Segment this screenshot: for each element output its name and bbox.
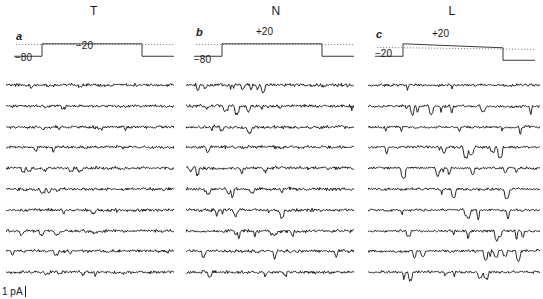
current-sweep <box>6 246 174 263</box>
sweep-polyline <box>368 229 540 241</box>
holding-potential-label-a: −80 <box>15 52 32 63</box>
current-sweep <box>6 101 174 118</box>
sweep-polyline <box>6 104 174 109</box>
sweep-polyline <box>186 271 354 278</box>
current-sweep <box>6 184 174 201</box>
sweep-polyline <box>186 187 354 198</box>
current-sweep <box>368 101 540 118</box>
sweep-polyline <box>186 146 354 153</box>
current-sweep <box>6 122 174 139</box>
sweep-polyline <box>6 187 174 193</box>
voltage-protocol-c <box>375 36 535 62</box>
step-potential-label-a: −20 <box>76 40 93 51</box>
current-sweep <box>368 163 540 180</box>
sweep-polyline <box>186 124 354 133</box>
sweep-polyline <box>6 229 174 236</box>
current-sweep <box>368 205 540 222</box>
sweep-polyline <box>368 188 540 199</box>
zero-reference-line <box>377 47 535 49</box>
scale-bar-label: 1 pA <box>2 286 23 297</box>
sweep-polyline <box>368 146 540 159</box>
current-sweep <box>186 142 354 159</box>
current-sweep <box>6 80 174 97</box>
figure-root: Ta−80−20Nb−80+20Lc−20+20 1 pA <box>0 0 543 299</box>
sweep-polyline <box>368 104 540 115</box>
voltage-protocol-b <box>194 36 354 62</box>
command-step-waveform <box>375 44 535 60</box>
panel-title-t: T <box>64 4 124 18</box>
holding-potential-label-c: −20 <box>375 48 392 59</box>
current-sweep <box>186 80 354 97</box>
sweep-polyline <box>6 125 174 130</box>
sweep-polyline <box>6 250 174 256</box>
current-sweep <box>368 184 540 201</box>
sweep-polyline <box>368 208 540 220</box>
sweep-polyline <box>186 104 354 114</box>
current-sweep <box>186 205 354 222</box>
sweep-polyline <box>6 208 174 214</box>
command-step-waveform <box>194 44 354 56</box>
current-sweep <box>186 184 354 201</box>
sweep-polyline <box>186 83 354 93</box>
current-sweep <box>186 101 354 118</box>
sweep-polyline <box>6 271 174 277</box>
sweep-polyline <box>186 229 354 239</box>
current-sweep <box>6 267 174 284</box>
current-sweep <box>368 142 540 159</box>
sweep-polyline <box>368 271 540 282</box>
voltage-protocol-a <box>14 36 174 62</box>
sweep-polyline <box>186 166 354 176</box>
scale-bar: 1 pA <box>2 286 26 297</box>
vertical-scale-bar-icon <box>25 286 26 297</box>
panel-title-n: N <box>246 4 306 18</box>
step-potential-label-c: +20 <box>432 28 449 39</box>
current-sweep <box>368 226 540 243</box>
current-sweep <box>368 267 540 284</box>
sweep-polyline <box>6 166 174 172</box>
command-step-waveform <box>14 44 174 56</box>
sweep-polyline <box>368 249 540 262</box>
step-potential-label-b: +20 <box>256 26 273 37</box>
current-sweep <box>6 205 174 222</box>
sweep-polyline <box>186 249 354 259</box>
current-sweep <box>6 226 174 243</box>
current-sweep <box>186 226 354 243</box>
current-sweep <box>6 142 174 159</box>
sweep-polyline <box>368 125 540 134</box>
current-sweep <box>368 80 540 97</box>
current-sweep <box>6 163 174 180</box>
sweep-polyline <box>6 146 174 153</box>
current-sweep <box>368 246 540 263</box>
current-sweep <box>186 246 354 263</box>
sweep-polyline <box>368 167 540 179</box>
sweep-polyline <box>186 208 354 218</box>
current-sweep <box>368 122 540 139</box>
holding-potential-label-b: −80 <box>194 54 211 65</box>
current-sweep <box>186 163 354 180</box>
current-sweep <box>186 267 354 284</box>
panel-title-l: L <box>422 4 482 18</box>
sweep-polyline <box>368 84 540 91</box>
current-sweep <box>186 122 354 139</box>
sweep-polyline <box>6 83 174 88</box>
